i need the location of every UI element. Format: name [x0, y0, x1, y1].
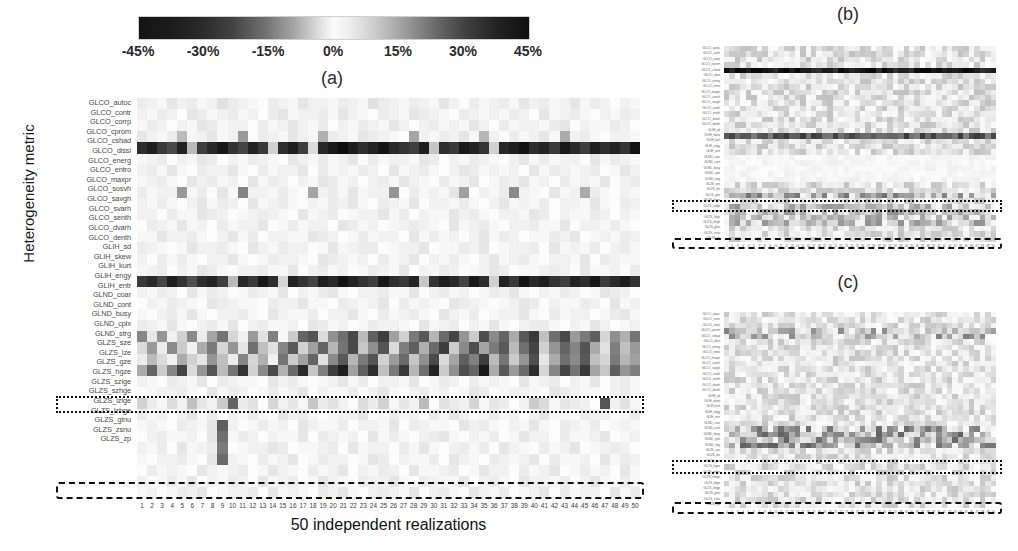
- heatmap-cell: [187, 420, 197, 431]
- heatmap-cell: [288, 454, 298, 465]
- heatmap-cell: [197, 131, 207, 142]
- heatmap-cell: [509, 465, 519, 476]
- heatmap-cell: [157, 98, 167, 109]
- heatmap-cell: [469, 131, 479, 142]
- row-label-glzs_gze: GLZS_gze: [54, 357, 134, 367]
- heatmap-cell: [288, 220, 298, 231]
- heatmap-cell: [519, 154, 529, 165]
- heatmap-cell: [298, 120, 308, 131]
- x-tick-7: 7: [197, 500, 207, 512]
- heatmap-cell: [580, 276, 590, 287]
- heatmap-cell: [419, 342, 429, 353]
- heatmap-cell: [489, 409, 499, 420]
- heatmap-cell: [469, 265, 479, 276]
- heatmap-cell: [549, 287, 559, 298]
- heatmap-cell: [519, 198, 529, 209]
- heatmap-cell: [469, 487, 479, 498]
- heatmap-cell: [268, 342, 278, 353]
- heatmap-cell: [449, 465, 459, 476]
- heatmap-cell: [278, 398, 288, 409]
- heatmap-cell: [338, 442, 348, 453]
- heatmap-cell: [288, 265, 298, 276]
- heatmap-cell: [177, 454, 187, 465]
- heatmap-cell: [187, 409, 197, 420]
- heatmap-cell: [268, 376, 278, 387]
- heatmap-cell: [308, 420, 318, 431]
- heatmap-cell: [630, 220, 640, 231]
- heatmap-cell: [620, 320, 630, 331]
- heatmap-cell: [399, 154, 409, 165]
- heatmap-cell: [469, 298, 479, 309]
- heatmap-cell: [328, 287, 338, 298]
- heatmap-cell: [378, 487, 388, 498]
- heatmap-cell: [610, 354, 620, 365]
- heatmap-cell: [338, 154, 348, 165]
- heatmap-cell: [358, 187, 368, 198]
- heatmap-cell: [590, 176, 600, 187]
- heatmap-cell: [580, 109, 590, 120]
- heatmap-cell: [570, 465, 580, 476]
- heatmap-cell: [419, 454, 429, 465]
- heatmap-cell: [207, 165, 217, 176]
- heatmap-cell: [207, 176, 217, 187]
- x-tick-43: 43: [560, 500, 570, 512]
- heatmap-cell: [137, 487, 147, 498]
- x-tick-22: 22: [348, 500, 358, 512]
- heatmap-cell: [378, 342, 388, 353]
- heatmap-cell: [328, 309, 338, 320]
- heatmap-cell: [600, 176, 610, 187]
- heatmap-cell: [368, 198, 378, 209]
- heatmap-cell: [268, 287, 278, 298]
- heatmap-cell: [439, 398, 449, 409]
- heatmap-cell: [147, 165, 157, 176]
- heatmap-cell: [358, 442, 368, 453]
- heatmap-cell: [137, 387, 147, 398]
- heatmap-cell: [499, 342, 509, 353]
- heatmap-cell: [499, 165, 509, 176]
- heatmap-cell: [409, 298, 419, 309]
- heatmap-cell: [308, 242, 318, 253]
- heatmap-cell: [529, 420, 539, 431]
- heatmap-cell: [338, 187, 348, 198]
- heatmap-cell: [479, 209, 489, 220]
- heatmap-cell: [570, 154, 580, 165]
- heatmap-cell: [147, 265, 157, 276]
- heatmap-cell: [197, 176, 207, 187]
- heatmap-cell: [600, 231, 610, 242]
- heatmap-cell: [409, 420, 419, 431]
- heatmap-cell: [499, 254, 509, 265]
- row-label-glzs_lzhge: GLZS_lzhge: [54, 406, 134, 416]
- heatmap-cell: [489, 442, 499, 453]
- heatmap-cell: [328, 476, 338, 487]
- heatmap-cell: [389, 287, 399, 298]
- heatmap-cell: [479, 154, 489, 165]
- heatmap-cell: [328, 487, 338, 498]
- heatmap-cell: [147, 131, 157, 142]
- heatmap-cell: [167, 254, 177, 265]
- heatmap-cell: [570, 487, 580, 498]
- heatmap-cell: [197, 98, 207, 109]
- heatmap-cell: [509, 131, 519, 142]
- heatmap-cell: [248, 309, 258, 320]
- heatmap-cell: [197, 465, 207, 476]
- heatmap-cell: [137, 431, 147, 442]
- heatmap-cell: [580, 265, 590, 276]
- heatmap-cell: [580, 320, 590, 331]
- heatmap-cell: [499, 120, 509, 131]
- heatmap-cell: [489, 265, 499, 276]
- heatmap-cell: [399, 487, 409, 498]
- heatmap-cell: [399, 298, 409, 309]
- heatmap-cell: [368, 365, 378, 376]
- heatmap-cell: [570, 342, 580, 353]
- heatmap-cell: [560, 487, 570, 498]
- heatmap-cell: [580, 376, 590, 387]
- heatmap-cell: [228, 120, 238, 131]
- heatmap-cell: [378, 420, 388, 431]
- heatmap-cell: [539, 98, 549, 109]
- heatmap-cell: [368, 387, 378, 398]
- heatmap-cell: [147, 476, 157, 487]
- heatmap-cell: [298, 376, 308, 387]
- heatmap-cell: [590, 98, 600, 109]
- heatmap-cell: [419, 176, 429, 187]
- heatmap-cell: [217, 265, 227, 276]
